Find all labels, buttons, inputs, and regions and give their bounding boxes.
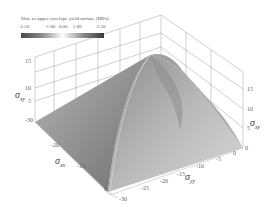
colorbar-tick: 2.50	[97, 24, 106, 29]
z-tick-right: 0	[245, 145, 248, 151]
colorbar-tick: 0.00	[59, 24, 68, 29]
syy-tick: -30	[119, 196, 127, 202]
sxx-tick: 0	[104, 186, 107, 192]
colorbar-tick: -2.50	[19, 24, 29, 29]
sxx-tick: -10	[77, 163, 85, 169]
yield-surface	[35, 54, 243, 192]
syy-axis-label: σyy	[185, 171, 195, 184]
syy-tick: 0	[233, 150, 236, 156]
z-tick-left: 15	[25, 58, 31, 64]
syy-tick: -5	[216, 156, 221, 162]
z-tick-left: -30	[25, 117, 33, 123]
z-tick-left: 5	[28, 98, 31, 104]
syy-tick: -20	[160, 178, 168, 184]
colorbar-tick: 1.00	[73, 24, 82, 29]
z-axis-label-right: σxy	[250, 117, 260, 130]
z-tick-right: 15	[247, 86, 253, 92]
sxx-tick: -20	[51, 142, 59, 148]
colorbar	[21, 33, 104, 38]
z-axis-label-left: σxy	[15, 89, 25, 102]
syy-tick: -10	[196, 163, 204, 169]
syy-tick: -15	[177, 171, 185, 177]
z-tick-left: 10	[25, 85, 31, 91]
sxx-axis-label: σxx	[55, 155, 65, 168]
z-tick-right: 10	[247, 106, 253, 112]
colorbar-title: Dist. to upper envelope yield surface (M…	[21, 16, 109, 21]
surface-plot	[0, 0, 273, 207]
colorbar-tick: -1.00	[45, 24, 55, 29]
syy-tick: -25	[141, 185, 149, 191]
